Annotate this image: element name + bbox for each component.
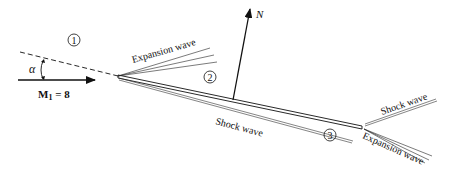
te-expansion-label: Expansion wave — [361, 130, 426, 167]
mach-label: M1 = 8 — [38, 88, 70, 102]
flat-plate-diagram: N 1 2 3 α M1 = 8 Expansion wave Shock wa… — [0, 0, 451, 179]
arc-arrowhead-icon — [41, 59, 45, 63]
angle-of-attack-arc — [41, 61, 43, 79]
region-1-marker: 1 — [68, 34, 80, 46]
normal-force-arrow — [233, 9, 250, 100]
le-shock-label: Shock wave — [214, 115, 264, 138]
angle-label: α — [29, 62, 36, 76]
leading-edge-shock — [119, 78, 353, 143]
svg-text:1: 1 — [72, 35, 77, 46]
te-shock-label: Shock wave — [379, 90, 429, 116]
normal-label: N — [255, 8, 264, 20]
svg-text:2: 2 — [208, 72, 213, 83]
region-2-marker: 2 — [204, 71, 216, 83]
region-3-marker: 3 — [324, 129, 336, 141]
svg-text:3: 3 — [328, 130, 333, 141]
